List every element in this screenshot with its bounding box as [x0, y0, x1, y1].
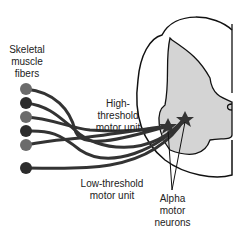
muscle-fiber	[20, 125, 32, 137]
label-low-threshold: Low-threshold motor unit	[72, 178, 152, 202]
muscle-fiber	[20, 139, 32, 151]
muscle-fiber	[20, 111, 32, 123]
label-muscle-fibers: Skeletal muscle fibers	[2, 44, 52, 80]
muscle-fiber	[20, 162, 32, 174]
muscle-fiber	[20, 83, 32, 95]
muscle-fibers	[20, 83, 32, 174]
muscle-fiber	[20, 97, 32, 109]
label-high-threshold: High- threshold motor unit	[88, 98, 148, 134]
label-alpha-motor-neurons: Alpha motor neurons	[150, 193, 195, 229]
